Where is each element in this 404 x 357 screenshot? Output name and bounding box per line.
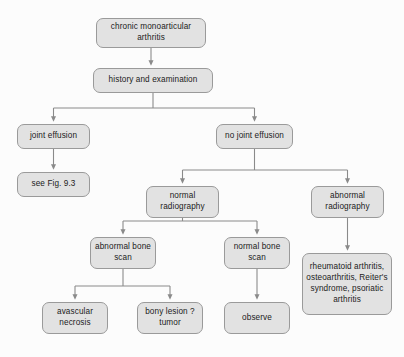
node-label-avascular: avascular necrosis	[46, 307, 104, 329]
node-observe: observe	[224, 302, 290, 334]
flowchart-canvas: chronic monoarticular arthritishistory a…	[0, 0, 404, 357]
node-no-effusion: no joint effusion	[216, 124, 293, 149]
node-root: chronic monoarticular arthritis	[96, 18, 206, 48]
node-label-abnormal-bone: abnormal bone scan	[94, 242, 152, 264]
node-abnormal-bone: abnormal bone scan	[90, 237, 156, 269]
node-label-diagnoses: rheumatoid arthritis, osteoarthritis, Re…	[306, 262, 388, 305]
node-label-normal-radio: normal radiography	[150, 191, 215, 213]
node-see-fig: see Fig. 9.3	[17, 172, 90, 197]
node-label-bony-lesion: bony lesion ? tumor	[141, 307, 199, 329]
node-normal-bone: normal bone scan	[224, 237, 290, 269]
node-label-observe: observe	[228, 313, 286, 324]
node-normal-radio: normal radiography	[146, 186, 219, 218]
node-label-history: history and examination	[97, 75, 209, 86]
node-history: history and examination	[93, 68, 213, 93]
node-abnormal-radio: abnormal radiography	[311, 186, 384, 218]
node-avascular: avascular necrosis	[42, 302, 108, 334]
node-label-normal-bone: normal bone scan	[228, 242, 286, 264]
node-label-see-fig: see Fig. 9.3	[21, 179, 86, 190]
node-label-no-effusion: no joint effusion	[220, 131, 289, 142]
node-effusion: joint effusion	[17, 124, 90, 149]
node-label-root: chronic monoarticular arthritis	[100, 22, 202, 44]
node-bony-lesion: bony lesion ? tumor	[137, 302, 203, 334]
node-label-abnormal-radio: abnormal radiography	[315, 191, 380, 213]
node-diagnoses: rheumatoid arthritis, osteoarthritis, Re…	[302, 253, 392, 315]
node-label-effusion: joint effusion	[21, 131, 86, 142]
